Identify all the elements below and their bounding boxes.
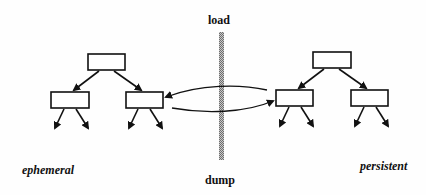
right-root-node [313,52,351,68]
right-child-node-left [276,90,313,106]
ephemeral-tree [51,54,163,128]
right-child-node-right [351,90,388,106]
left-child-node-right [126,92,163,108]
diagram-canvas: load dump ephemeral persistent [0,0,426,195]
barrier-bar [219,32,224,160]
dump-label: dump [205,174,235,186]
persistent-tree [276,52,388,126]
ephemeral-label: ephemeral [22,164,74,176]
left-child-node-left [51,92,89,108]
persistent-label: persistent [360,160,407,172]
load-label: load [208,14,230,26]
left-root-node [88,54,125,70]
